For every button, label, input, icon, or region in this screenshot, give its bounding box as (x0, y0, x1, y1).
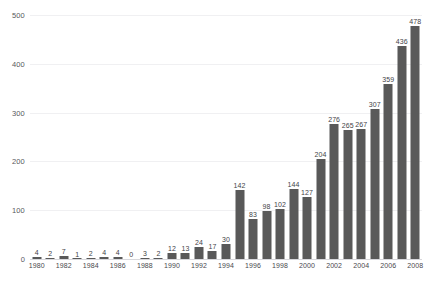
bar-slot[interactable]: 31988 (138, 15, 152, 259)
bar-slot[interactable]: 2 (44, 15, 58, 259)
x-axis-tick-label: 2006 (380, 262, 396, 269)
bar-value-label: 83 (249, 211, 257, 218)
bar[interactable] (32, 257, 41, 259)
bar-value-label: 436 (396, 38, 408, 45)
bar-chart: 0100200300400500 41980271982121984441986… (0, 0, 428, 287)
bar-value-label: 2 (89, 250, 93, 257)
bar-slot[interactable]: 2672004 (354, 15, 368, 259)
x-axis-tick-label: 2000 (299, 262, 315, 269)
x-axis-tick-label: 2004 (353, 262, 369, 269)
bar-slot[interactable]: 1272000 (300, 15, 314, 259)
bar-value-label: 3 (143, 250, 147, 257)
bar-slot[interactable]: 2 (152, 15, 166, 259)
bar-slot[interactable]: 301994 (219, 15, 233, 259)
x-axis-tick-label: 1990 (164, 262, 180, 269)
bar[interactable] (370, 109, 379, 259)
bar-slot[interactable]: 4782008 (408, 15, 422, 259)
bar-value-label: 102 (274, 201, 286, 208)
bar-slot[interactable]: 121990 (165, 15, 179, 259)
y-axis-tick-label: 0 (21, 255, 25, 264)
bar[interactable] (330, 124, 339, 259)
bar[interactable] (59, 256, 68, 259)
x-axis-tick-label: 1982 (56, 262, 72, 269)
bar[interactable] (397, 46, 406, 259)
bar[interactable] (316, 159, 325, 259)
bar-slot[interactable]: 1021998 (273, 15, 287, 259)
bar[interactable] (208, 251, 217, 259)
bar-value-label: 98 (263, 203, 271, 210)
x-axis-tick-label: 1992 (191, 262, 207, 269)
bar[interactable] (46, 258, 55, 260)
bar[interactable] (221, 244, 230, 259)
x-axis-tick-label: 1994 (218, 262, 234, 269)
bar-value-label: 2 (48, 250, 52, 257)
bar[interactable] (235, 190, 244, 259)
bar[interactable] (167, 253, 176, 259)
bar[interactable] (411, 26, 420, 259)
bar-value-label: 0 (129, 251, 133, 258)
x-axis-tick-label: 2008 (407, 262, 423, 269)
bar-slot[interactable]: 3592006 (381, 15, 395, 259)
y-axis-tick-label: 100 (12, 206, 25, 215)
bars: 4198027198212198444198603198821219901324… (30, 15, 422, 259)
bar-slot[interactable]: 204 (314, 15, 328, 259)
bar[interactable] (276, 209, 285, 259)
bar-slot[interactable]: 307 (368, 15, 382, 259)
bar[interactable] (289, 189, 298, 259)
bar-value-label: 24 (195, 239, 203, 246)
bar[interactable] (100, 257, 109, 259)
bar-value-label: 12 (168, 245, 176, 252)
bar-value-label: 1 (75, 251, 79, 258)
bar-slot[interactable]: 4 (98, 15, 112, 259)
bar-slot[interactable]: 831996 (246, 15, 260, 259)
bar[interactable] (343, 130, 352, 259)
x-axis-tick-label: 1998 (272, 262, 288, 269)
bar-value-label: 7 (62, 248, 66, 255)
bar-slot[interactable]: 0 (125, 15, 139, 259)
bar-slot[interactable]: 98 (260, 15, 274, 259)
bar[interactable] (357, 129, 366, 259)
bar-slot[interactable]: 13 (179, 15, 193, 259)
bar-slot[interactable]: 241992 (192, 15, 206, 259)
bar[interactable] (181, 253, 190, 259)
y-axis-tick-label: 500 (12, 11, 25, 20)
bar[interactable] (86, 258, 95, 260)
bar-slot[interactable]: 436 (395, 15, 409, 259)
bar-slot[interactable]: 142 (233, 15, 247, 259)
bar-slot[interactable]: 1 (71, 15, 85, 259)
bar[interactable] (73, 258, 82, 260)
bar[interactable] (303, 197, 312, 259)
bar-slot[interactable]: 41986 (111, 15, 125, 259)
bar-value-label: 144 (288, 181, 300, 188)
bar-slot[interactable]: 144 (287, 15, 301, 259)
bar-slot[interactable]: 41980 (30, 15, 44, 259)
bar-value-label: 478 (409, 18, 421, 25)
x-axis-tick-label: 1980 (29, 262, 45, 269)
bar-value-label: 142 (234, 182, 246, 189)
gridline (30, 259, 422, 260)
bar-slot[interactable]: 71982 (57, 15, 71, 259)
bar-value-label: 267 (355, 121, 367, 128)
bar-value-label: 276 (328, 116, 340, 123)
bar-value-label: 127 (301, 189, 313, 196)
bar-slot[interactable]: 17 (206, 15, 220, 259)
bar[interactable] (262, 211, 271, 259)
bar-slot[interactable]: 21984 (84, 15, 98, 259)
bar-value-label: 4 (102, 249, 106, 256)
bar-slot[interactable]: 2762002 (327, 15, 341, 259)
bar-value-label: 265 (342, 122, 354, 129)
x-axis-tick-label: 2002 (326, 262, 342, 269)
x-axis-tick-label: 1988 (137, 262, 153, 269)
bar-value-label: 13 (181, 245, 189, 252)
bar[interactable] (384, 84, 393, 259)
bar-value-label: 4 (116, 249, 120, 256)
bar[interactable] (154, 258, 163, 260)
bar[interactable] (113, 257, 122, 259)
x-axis-tick-label: 1986 (110, 262, 126, 269)
bar[interactable] (140, 258, 149, 260)
x-axis-tick-label: 1996 (245, 262, 261, 269)
bar[interactable] (249, 219, 258, 260)
bar-value-label: 2 (156, 250, 160, 257)
bar-slot[interactable]: 265 (341, 15, 355, 259)
bar[interactable] (194, 247, 203, 259)
